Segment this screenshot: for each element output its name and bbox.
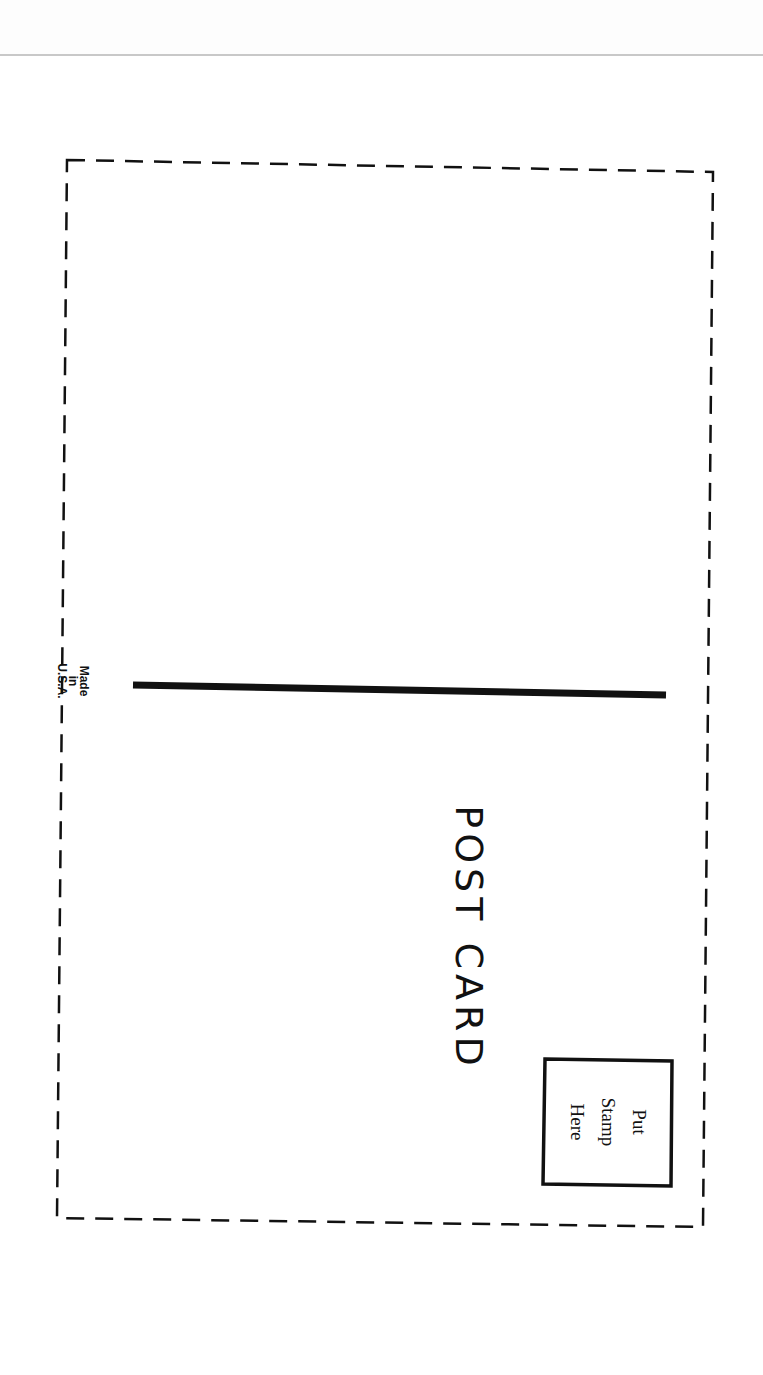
stamp-line-put: Put — [624, 1077, 655, 1167]
postcard-back — [0, 0, 763, 1375]
address-message-divider — [133, 685, 666, 695]
stamp-line-stamp: Stamp — [593, 1077, 624, 1167]
usa-line: U.S.A. — [56, 661, 67, 701]
stamp-line-here: Here — [562, 1077, 593, 1167]
stamp-instructions: Put Stamp Here — [562, 1077, 655, 1167]
made-in-usa-note: Made in U.S.A. — [56, 661, 89, 701]
postcard-title: POST CARD — [447, 805, 491, 1070]
